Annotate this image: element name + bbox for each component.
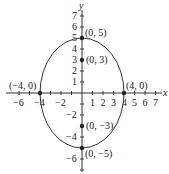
- svg-text:1: 1: [90, 97, 95, 108]
- svg-text:2: 2: [101, 97, 106, 108]
- point-left-covertex: [38, 91, 42, 95]
- svg-text:5: 5: [72, 32, 77, 43]
- svg-text:−4: −4: [34, 97, 45, 108]
- svg-text:−6: −6: [13, 97, 24, 108]
- x-axis-label: x: [162, 87, 168, 98]
- point-bottom-focus: [80, 124, 84, 128]
- svg-text:2: 2: [72, 65, 77, 76]
- svg-text:−6: −6: [66, 153, 77, 164]
- label-top-vertex: (0, 5): [85, 27, 107, 39]
- label-bottom-vertex: (0, −5): [85, 148, 112, 160]
- svg-text:−2: −2: [55, 97, 66, 108]
- label-right-covertex: (4, 0): [126, 80, 148, 92]
- label-top-focus: (0, 3): [86, 54, 108, 66]
- y-axis-label: y: [78, 0, 84, 11]
- label-bottom-focus: (0, −3): [86, 120, 113, 132]
- x-tick-labels: −6 −4 −2 1 2 3 4 5 6 7: [13, 97, 158, 108]
- svg-text:6: 6: [72, 21, 77, 32]
- svg-text:3: 3: [111, 97, 116, 108]
- ellipse-graph: x y −6 −4 −2 1 2 3 4 5 6 7: [0, 0, 169, 174]
- svg-text:−4: −4: [66, 131, 77, 142]
- svg-text:4: 4: [72, 43, 77, 54]
- point-bottom-vertex: [80, 146, 84, 150]
- point-top-focus: [80, 58, 84, 62]
- svg-text:5: 5: [132, 97, 137, 108]
- point-top-vertex: [80, 36, 84, 40]
- point-right-covertex: [122, 91, 126, 95]
- label-left-covertex: (−4, 0): [9, 80, 36, 92]
- svg-text:1: 1: [72, 76, 77, 87]
- svg-text:7: 7: [153, 97, 158, 108]
- y-tick-labels: 7 6 5 4 3 2 1 −2 −4 −6: [66, 10, 77, 164]
- svg-text:6: 6: [143, 97, 148, 108]
- svg-text:7: 7: [72, 10, 77, 21]
- svg-text:−2: −2: [66, 109, 77, 120]
- svg-text:3: 3: [72, 54, 77, 65]
